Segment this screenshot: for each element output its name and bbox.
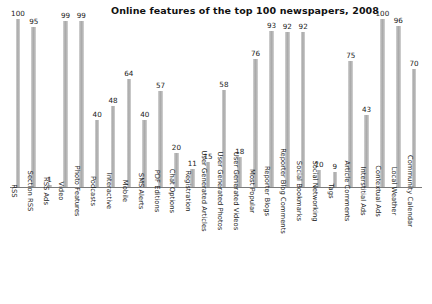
category-label: RSS: [10, 184, 18, 197]
category-label: User Generated Articles: [200, 150, 208, 231]
bar-column: 40: [137, 19, 153, 187]
category-label-slot: Chat Options: [168, 189, 184, 304]
category-label-slot: Video: [58, 189, 74, 304]
bar-column: 76: [248, 19, 264, 187]
category-label-slot: Local Weather: [390, 189, 406, 304]
category-label-slot: SMS Alerts: [137, 189, 153, 304]
category-label: Mobile: [121, 180, 129, 202]
category-label: SMS Alerts: [137, 173, 145, 209]
bar: [269, 31, 274, 187]
bar-value-label: 70: [403, 59, 425, 68]
category-label: User Generated Photos: [216, 152, 224, 231]
category-label-slot: Section RSS: [26, 189, 42, 304]
category-label: Contextual Ads: [374, 165, 382, 217]
category-label: Interstitial Ads: [359, 166, 367, 215]
category-label: Tags: [327, 183, 335, 198]
category-label: Chat Options: [168, 169, 176, 213]
category-label: Social Networking: [311, 160, 319, 221]
category-label-slot: RSS: [10, 189, 26, 304]
category-label-slot: Interstitial Ads: [359, 189, 375, 304]
category-label-slot: User Generated Videos: [232, 189, 248, 304]
bar: [396, 26, 401, 187]
category-label-slot: Social Bookmarks: [295, 189, 311, 304]
category-label: Registration: [184, 171, 192, 212]
category-label-slot: Registration: [184, 189, 200, 304]
bar-column: 100: [10, 19, 26, 187]
bar-column: 1: [42, 19, 58, 187]
category-label: Local Weather: [390, 167, 398, 215]
category-label: Reporter Blog Comments: [279, 148, 287, 234]
category-label: Community Calendar: [406, 155, 414, 227]
category-label-slot: Most Popular: [248, 189, 264, 304]
bar-column: 96: [390, 19, 406, 187]
bar-column: 43: [359, 19, 375, 187]
category-label-slot: PDF Editions: [153, 189, 169, 304]
category-label: Reporter Blogs: [263, 166, 271, 216]
category-label: RSS Ads: [42, 177, 50, 205]
category-label: Social Bookmarks: [295, 161, 303, 221]
bar-column: 95: [26, 19, 42, 187]
category-label-slot: Tags: [327, 189, 343, 304]
category-label-slot: Mobile: [121, 189, 137, 304]
category-label-slot: Community Calendar: [406, 189, 422, 304]
category-label: Photo Features: [73, 166, 81, 217]
category-label: PDF Editions: [153, 170, 161, 212]
category-label: User Generated Videos: [232, 152, 240, 230]
category-label-slot: User Generated Articles: [200, 189, 216, 304]
bar: [79, 21, 84, 187]
bar: [31, 27, 36, 187]
bar-column: 9: [327, 19, 343, 187]
bar-column: 48: [105, 19, 121, 187]
category-label: Section RSS: [26, 171, 34, 212]
bar-chart: Online features of the top 100 newspaper…: [0, 0, 432, 304]
bar: [127, 79, 132, 187]
category-label: Most Popular: [248, 169, 256, 213]
bar: [253, 59, 258, 187]
category-label-slot: RSS Ads: [42, 189, 58, 304]
category-label: Podcasts: [89, 176, 97, 206]
category-label-slot: Social Networking: [311, 189, 327, 304]
bar: [16, 19, 21, 187]
bar-column: 93: [264, 19, 280, 187]
bar-column: 100: [374, 19, 390, 187]
bar-column: 99: [73, 19, 89, 187]
category-label-slot: Interactive: [105, 189, 121, 304]
category-label-slot: Reporter Blogs: [264, 189, 280, 304]
bar: [380, 19, 385, 187]
category-label-slot: User Generated Photos: [216, 189, 232, 304]
category-label-slot: Podcasts: [89, 189, 105, 304]
category-label: Article Comments: [343, 161, 351, 222]
bar-column: 99: [58, 19, 74, 187]
bar: [63, 21, 68, 187]
bar-column: 11: [184, 19, 200, 187]
bar-column: 57: [153, 19, 169, 187]
category-label-slot: Reporter Blog Comments: [279, 189, 295, 304]
category-label: Video: [57, 181, 65, 200]
category-label: Interactive: [105, 173, 113, 210]
category-axis-labels: RSSSection RSSRSS AdsVideoPhoto Features…: [10, 189, 422, 304]
category-label-slot: Contextual Ads: [374, 189, 390, 304]
category-label-slot: Photo Features: [73, 189, 89, 304]
bar-column: 64: [121, 19, 137, 187]
category-label-slot: Article Comments: [343, 189, 359, 304]
